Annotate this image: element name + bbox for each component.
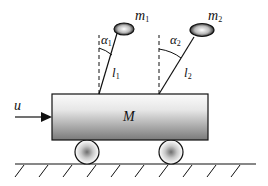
- label-force-u: u: [14, 99, 21, 113]
- label-cart-mass: M: [123, 110, 135, 124]
- wheel-right: [159, 140, 183, 164]
- mass-1: [114, 23, 134, 35]
- label-l1: l1: [112, 66, 120, 81]
- label-alpha1: α1: [101, 33, 112, 48]
- label-m1: m1: [135, 9, 149, 24]
- angle-arc-2: [159, 49, 181, 58]
- mass-2: [190, 24, 214, 37]
- wheel-left: [75, 140, 99, 164]
- pendulum-diagram: [0, 0, 268, 186]
- force-arrow: [15, 112, 52, 122]
- label-m2: m2: [208, 9, 222, 24]
- angle-arc-1: [99, 48, 112, 55]
- pendulum-2: [159, 24, 214, 95]
- label-alpha2: α2: [170, 33, 181, 48]
- label-l2: l2: [184, 66, 192, 81]
- ground: [15, 164, 256, 177]
